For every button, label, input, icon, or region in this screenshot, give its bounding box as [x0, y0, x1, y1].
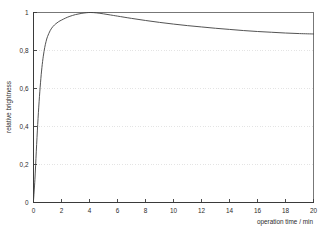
x-tick-label: 12: [198, 207, 206, 214]
y-tick-label: 0,4: [20, 123, 29, 130]
x-tick-label: 20: [310, 207, 318, 214]
x-tick-label: 6: [116, 207, 120, 214]
y-tick-label: 0,6: [20, 85, 29, 92]
y-axis-title: relative brightness: [5, 81, 13, 133]
x-tick-label: 16: [254, 207, 262, 214]
x-tick-label: 2: [60, 207, 64, 214]
x-tick-label: 10: [170, 207, 178, 214]
y-tick-label: 0,8: [20, 47, 29, 54]
x-tick-label: 4: [88, 207, 92, 214]
x-tick-label: 8: [144, 207, 148, 214]
chart-container: 02468101214161820 00,20,40,60,81 operati…: [0, 0, 334, 235]
x-tick-label: 0: [32, 207, 36, 214]
x-tick-label: 18: [282, 207, 290, 214]
x-tick-label: 14: [226, 207, 234, 214]
chart-background: [0, 0, 334, 235]
y-tick-label: 1: [25, 9, 29, 16]
line-chart: 02468101214161820 00,20,40,60,81 operati…: [0, 0, 334, 235]
y-tick-label: 0: [25, 199, 29, 206]
y-tick-label: 0,2: [20, 161, 29, 168]
x-axis-title: operation time / min: [257, 218, 314, 226]
